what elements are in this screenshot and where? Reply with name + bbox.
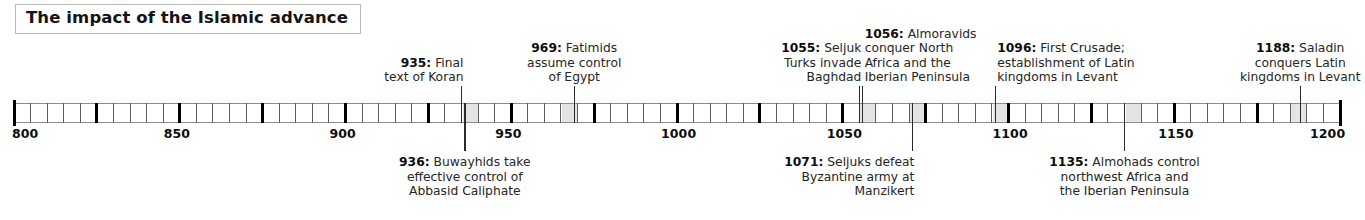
axis-tick-minor [942, 103, 943, 123]
axis-tick-minor [660, 103, 661, 123]
event-label-line: kingdoms in Levant [0, 70, 1365, 85]
axis-tick-minor [560, 103, 561, 123]
axis-tick-minor [30, 103, 31, 123]
event-marker [574, 86, 575, 123]
axis-tick-minor [909, 103, 910, 123]
axis-tick-minor [362, 103, 363, 123]
axis-label: 1100 [993, 126, 1028, 141]
axis-tick-minor [726, 103, 727, 123]
axis-tick-major [1173, 103, 1176, 123]
event-label-line: 1135: Almohads control [0, 155, 1365, 170]
axis-tick-minor [1290, 103, 1291, 123]
axis-tick-minor [1223, 103, 1224, 123]
event-marker [1124, 103, 1125, 151]
axis-tick-minor [793, 103, 794, 123]
axis-tick-minor [643, 103, 644, 123]
axis-tick-minor [743, 103, 744, 123]
axis-tick-minor [146, 103, 147, 123]
axis-label: 850 [164, 126, 190, 141]
event-marker [862, 86, 863, 123]
event-year: 1056: [865, 27, 904, 41]
axis-tick-minor [527, 103, 528, 123]
event-label-line: 1188: Saladin [0, 41, 1365, 56]
axis-label: 900 [330, 126, 356, 141]
axis-tick-minor [958, 103, 959, 123]
axis-tick-major [1007, 103, 1010, 123]
axis-tick-major [510, 103, 513, 123]
event-label-line: northwest Africa and [0, 170, 1365, 185]
axis-tick-minor [544, 103, 545, 123]
axis-tick-minor [710, 103, 711, 123]
event-label-line: the Iberian Peninsula [0, 184, 1365, 199]
axis-label: 1150 [1158, 126, 1193, 141]
axis-tick-major [758, 103, 761, 123]
axis-tick-minor [1190, 103, 1191, 123]
axis-tick-minor [411, 103, 412, 123]
axis-tick-major [178, 103, 181, 123]
axis-tick-minor [494, 103, 495, 123]
event-year: 1135: [1049, 155, 1088, 169]
axis-tick-minor [63, 103, 64, 123]
axis-label: 800 [12, 126, 38, 141]
axis-tick-minor [892, 103, 893, 123]
axis-tick-minor [875, 103, 876, 123]
axis-tick-minor [295, 103, 296, 123]
event-marker [461, 86, 462, 123]
axis-label: 1200 [1310, 126, 1345, 141]
axis-label: 1050 [827, 126, 862, 141]
event-label-line: conquers Latin [0, 56, 1365, 71]
axis-tick-major [676, 103, 679, 123]
axis-tick-minor [1273, 103, 1274, 123]
axis-tick-major [593, 103, 596, 123]
axis-tick-major [344, 103, 347, 123]
event-marker [859, 86, 860, 123]
axis-tick-minor [163, 103, 164, 123]
axis-tick-minor [229, 103, 230, 123]
axis-cell-highlight [1126, 104, 1141, 122]
axis-label: 1000 [661, 126, 696, 141]
event-marker [464, 103, 465, 151]
axis-tick-major [841, 103, 844, 123]
axis-tick-minor [246, 103, 247, 123]
event-label-line: 1056: Almoravids [865, 27, 977, 42]
axis-tick-minor [809, 103, 810, 123]
axis-tick-minor [1025, 103, 1026, 123]
axis-tick-minor [1306, 103, 1307, 123]
axis-tick-minor [113, 103, 114, 123]
event-label: 1135: Almohads controlnorthwest Africa a… [0, 155, 1365, 199]
axis-tick-minor [776, 103, 777, 123]
axis-tick-major [427, 103, 430, 123]
axis-tick-minor [627, 103, 628, 123]
axis-tick-major [1090, 103, 1093, 123]
axis-tick-minor [1323, 103, 1324, 123]
event-marker [912, 103, 913, 151]
axis-tick-minor [478, 103, 479, 123]
axis-tick-minor [130, 103, 131, 123]
axis-tick-major [1339, 100, 1342, 126]
axis-tick-minor [1157, 103, 1158, 123]
axis-tick-minor [1041, 103, 1042, 123]
event-label: 1188: Saladinconquers Latinkingdoms in L… [0, 41, 1365, 85]
axis-tick-minor [312, 103, 313, 123]
axis-tick-major [261, 103, 264, 123]
axis-label: 950 [495, 126, 521, 141]
axis-tick-minor [1207, 103, 1208, 123]
axis-tick-minor [395, 103, 396, 123]
axis-tick-minor [1240, 103, 1241, 123]
axis-tick-minor [196, 103, 197, 123]
axis-tick-minor [1074, 103, 1075, 123]
axis-tick-minor [279, 103, 280, 123]
axis-tick-minor [826, 103, 827, 123]
axis-tick-major [924, 103, 927, 123]
axis-tick-minor [378, 103, 379, 123]
axis-tick-minor [991, 103, 992, 123]
axis-tick-minor [212, 103, 213, 123]
page-title: The impact of the Islamic advance [15, 4, 361, 34]
axis-tick-major [13, 100, 16, 126]
axis-tick-major [1256, 103, 1259, 123]
axis-tick-major [95, 103, 98, 123]
axis-tick-minor [80, 103, 81, 123]
axis-tick-minor [577, 103, 578, 123]
axis-tick-minor [444, 103, 445, 123]
